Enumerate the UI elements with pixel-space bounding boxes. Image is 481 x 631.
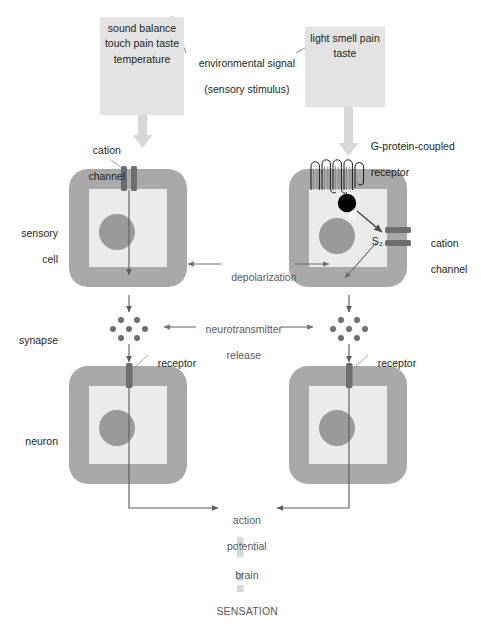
cation-channel-right-line1: cation — [431, 237, 459, 249]
second-messenger-text: S₂ — [372, 235, 383, 247]
sensation-text: SENSATION — [216, 605, 278, 617]
cation-channel-label-right: cation channel — [419, 224, 481, 289]
sensory-cell-line1: sensory — [21, 227, 58, 239]
depolarization-text: depolarization — [231, 271, 296, 283]
environmental-signal-line2: (sensory stimulus) — [204, 83, 289, 95]
stimulus-left-text: sound balance touch pain taste temperatu… — [105, 22, 179, 65]
depolarization-label: depolarization — [198, 258, 318, 297]
g-protein-label: G — [338, 196, 356, 235]
synapse-text: synapse — [19, 334, 58, 346]
receptor-right-text: receptor — [378, 357, 417, 369]
sensation-label: SENSATION — [190, 592, 292, 631]
neurotransmitter-release-label: neurotransmitter release — [190, 310, 286, 375]
environmental-signal-line1: environmental signal — [199, 57, 295, 69]
receptor-left — [126, 363, 133, 388]
neurotransmitter-release-line1: neurotransmitter — [206, 323, 282, 335]
second-messenger-label: S₂ — [360, 222, 383, 261]
stimulus-arrow-right — [339, 107, 359, 156]
action-potential-line1: action — [233, 514, 261, 526]
stimulus-right-text: light smell pain taste — [310, 32, 379, 59]
gpcr-line2: receptor — [371, 166, 410, 178]
gpcr-line1: G-protein-coupled — [371, 140, 455, 152]
row-label-neuron: neuron — [0, 422, 58, 461]
diagram-canvas: sound balance touch pain taste temperatu… — [0, 0, 481, 631]
environmental-signal-label: environmental signal (sensory stimulus) — [186, 44, 296, 109]
neurotransmitter-dots-left — [110, 317, 148, 341]
cation-channel-label-left: cation channel — [62, 131, 140, 196]
g-protein-letter: G — [349, 210, 357, 221]
row-label-sensory-cell: sensory cell — [0, 214, 58, 279]
brain-label: brain — [200, 556, 282, 595]
stimulus-box-right: light smell pain taste — [305, 27, 385, 107]
row-label-synapse: synapse — [0, 321, 58, 360]
brain-text: brain — [235, 569, 258, 581]
neurotransmitter-dots-right — [330, 317, 368, 341]
cation-channel-left-line2: channel — [88, 170, 125, 182]
gpcr-label: G-protein-coupled receptor — [359, 127, 479, 192]
neurotransmitter-release-line2: release — [227, 349, 261, 361]
action-potential-line2: potential — [227, 540, 267, 552]
sensory-cell-line2: cell — [42, 253, 58, 265]
receptor-left-text: receptor — [158, 357, 197, 369]
receptor-label-left: receptor — [146, 344, 196, 383]
receptor-right — [346, 363, 353, 388]
receptor-label-right: receptor — [366, 344, 416, 383]
neuron-text: neuron — [25, 435, 58, 447]
cation-channel-left-line1: cation — [93, 144, 121, 156]
stimulus-box-left: sound balance touch pain taste temperatu… — [100, 17, 184, 115]
cation-channel-right-line2: channel — [431, 263, 468, 275]
